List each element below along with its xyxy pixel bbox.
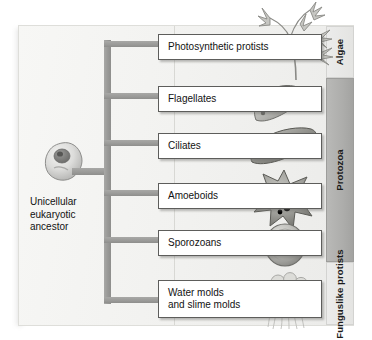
group-band-funguslike-protists-label: Funguslike protists xyxy=(335,249,346,339)
group-band-algae-label: Algae xyxy=(335,39,346,65)
group-band-protozoa-label: Protozoa xyxy=(335,149,346,190)
node-water-and-slime-molds-label: Water molds and slime molds xyxy=(168,287,240,311)
branch-connector-amoeboids xyxy=(104,190,162,196)
branch-connector-flagellates xyxy=(104,93,162,99)
group-band-protozoa: Protozoa xyxy=(326,78,354,262)
node-amoeboids[interactable]: Amoeboids xyxy=(158,183,322,209)
node-ciliates[interactable]: Ciliates xyxy=(158,133,322,159)
node-photosynthetic-protists[interactable]: Photosynthetic protists xyxy=(158,34,322,60)
node-amoeboids-label: Amoeboids xyxy=(168,190,218,202)
group-band-funguslike-protists: Funguslike protists xyxy=(326,262,354,325)
node-photosynthetic-protists-label: Photosynthetic protists xyxy=(168,41,269,53)
cladogram-trunk xyxy=(104,40,111,304)
protist-classification-diagram: Algae Protozoa Funguslike protists Unice… xyxy=(0,0,372,340)
node-ciliates-label: Ciliates xyxy=(168,140,201,152)
node-sporozoans-label: Sporozoans xyxy=(168,237,221,249)
branch-connector-water-and-slime-molds xyxy=(104,297,162,303)
node-flagellates[interactable]: Flagellates xyxy=(158,86,322,112)
branch-connector-sporozoans xyxy=(104,237,162,243)
ancestor-stem xyxy=(72,168,106,175)
unicellular-eukaryote-cell-icon xyxy=(42,140,86,184)
branch-connector-photosynthetic-protists xyxy=(104,41,162,47)
node-flagellates-label: Flagellates xyxy=(168,93,216,105)
node-water-and-slime-molds[interactable]: Water molds and slime molds xyxy=(158,280,322,318)
branch-connector-ciliates xyxy=(104,140,162,146)
node-sporozoans[interactable]: Sporozoans xyxy=(158,230,322,256)
